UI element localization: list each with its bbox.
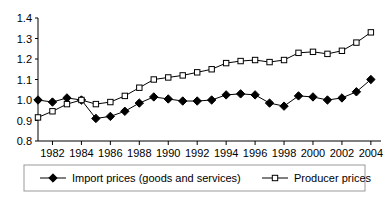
- chart-series: [34, 75, 375, 122]
- data-point-marker-square: [151, 77, 156, 82]
- data-point-marker-diamond: [323, 96, 331, 104]
- data-point-marker-square: [281, 57, 286, 62]
- data-point-marker-diamond: [150, 93, 158, 101]
- y-axis-tick-label: 0.9: [17, 115, 32, 127]
- data-point-marker-diamond: [265, 99, 273, 107]
- y-axis-tick-label: 1.4: [17, 12, 32, 24]
- data-point-marker-diamond: [48, 98, 56, 106]
- x-axis-tick-label: 1986: [98, 147, 122, 159]
- data-point-marker-square: [35, 115, 40, 120]
- data-point-marker-square: [108, 99, 113, 104]
- data-point-marker-diamond: [309, 93, 317, 101]
- data-point-marker-diamond: [164, 95, 172, 103]
- series-line: [38, 80, 371, 119]
- data-point-marker-square: [310, 49, 315, 54]
- data-point-marker-square: [180, 73, 185, 78]
- data-point-marker-square: [223, 60, 228, 65]
- x-axis-tick-label: 2004: [359, 147, 383, 159]
- chart-axes: [35, 18, 381, 145]
- data-point-marker-diamond: [222, 91, 230, 99]
- data-point-marker-diamond: [34, 96, 42, 104]
- data-point-marker-diamond: [135, 99, 143, 107]
- legend-item-label: Import prices (goods and services): [72, 172, 241, 184]
- data-point-marker-diamond: [338, 94, 346, 102]
- data-point-marker-square: [166, 75, 171, 80]
- data-point-marker-diamond: [63, 94, 71, 102]
- data-point-marker-diamond: [294, 92, 302, 100]
- x-axis-tick-label: 1982: [40, 147, 64, 159]
- line-chart: 0.80.91.01.11.21.31.4 198219841986198819…: [0, 0, 389, 197]
- x-axis-tick-label: 1992: [185, 147, 209, 159]
- legend-item-label: Producer prices: [294, 172, 372, 184]
- data-point-marker-square: [93, 101, 98, 106]
- x-axis-tick-label: 1988: [127, 147, 151, 159]
- axis-lines: [38, 18, 381, 141]
- data-point-marker-square: [325, 51, 330, 56]
- x-axis-tick-label: 1998: [272, 147, 296, 159]
- chart-series-layer: [34, 30, 375, 123]
- data-point-marker-square: [194, 70, 199, 75]
- data-point-marker-square: [238, 58, 243, 63]
- x-axis-tick-labels: 1982198419861988199019921994199619982000…: [40, 147, 383, 159]
- data-point-marker-diamond: [106, 112, 114, 120]
- data-point-marker-square: [296, 50, 301, 55]
- data-point-marker-square: [209, 67, 214, 72]
- y-axis-tick-label: 1.2: [17, 53, 32, 65]
- data-point-marker-diamond: [179, 97, 187, 105]
- data-point-marker-square: [339, 48, 344, 53]
- series-line: [38, 32, 371, 117]
- data-point-marker-diamond: [49, 174, 57, 182]
- chart-container: 0.80.91.01.11.21.31.4 198219841986198819…: [0, 0, 389, 197]
- data-point-marker-square: [79, 97, 84, 102]
- data-point-marker-diamond: [193, 97, 201, 105]
- data-point-marker-diamond: [236, 90, 244, 98]
- y-axis-tick-label: 1.3: [17, 33, 32, 45]
- chart-legend: Import prices (goods and services)Produc…: [24, 165, 372, 191]
- y-axis-tick-labels: 0.80.91.01.11.21.31.4: [17, 12, 32, 147]
- data-point-marker-square: [252, 57, 257, 62]
- x-axis-tick-label: 1994: [214, 147, 238, 159]
- legend-item[interactable]: Producer prices: [262, 172, 372, 184]
- y-axis-tick-label: 1.0: [17, 94, 32, 106]
- y-axis-tick-label: 0.8: [17, 135, 32, 147]
- data-point-marker-diamond: [207, 96, 215, 104]
- legend-item[interactable]: Import prices (goods and services): [40, 172, 241, 184]
- y-axis-tick-label: 1.1: [17, 74, 32, 86]
- data-point-marker-square: [122, 93, 127, 98]
- data-point-marker-diamond: [121, 107, 129, 115]
- x-axis-tick-label: 1984: [69, 147, 93, 159]
- data-point-marker-square: [368, 30, 373, 35]
- data-point-marker-diamond: [280, 102, 288, 110]
- data-point-marker-square: [267, 59, 272, 64]
- data-point-marker-square: [272, 175, 277, 180]
- data-point-marker-square: [354, 40, 359, 45]
- x-axis-tick-label: 2002: [330, 147, 354, 159]
- data-point-marker-square: [50, 109, 55, 114]
- x-axis-tick-label: 1990: [156, 147, 180, 159]
- data-point-marker-square: [137, 85, 142, 90]
- x-axis-tick-label: 2000: [301, 147, 325, 159]
- data-point-marker-square: [64, 101, 69, 106]
- x-axis-tick-label: 1996: [243, 147, 267, 159]
- data-point-marker-diamond: [251, 91, 259, 99]
